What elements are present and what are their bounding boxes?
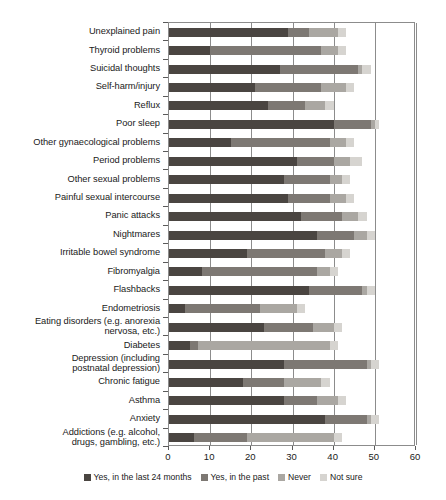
bar-segment: [169, 341, 190, 350]
bar-segment: [169, 101, 268, 110]
category-label: Anxiety: [0, 413, 164, 423]
category-label: Other sexual problems: [0, 174, 164, 184]
bar-segment: [301, 212, 342, 221]
bar-segment: [260, 304, 297, 313]
bar-segment: [169, 138, 231, 147]
bar-segment: [297, 304, 305, 313]
category-label: Panic attacks: [0, 210, 164, 220]
bar-row: [169, 231, 416, 240]
bar-segment: [255, 83, 321, 92]
bar-segment: [309, 286, 363, 295]
bar-segment: [284, 378, 321, 387]
x-axis-tick: [374, 446, 375, 450]
bar-segment: [309, 28, 338, 37]
x-axis-tick: [250, 446, 251, 450]
bar-row: [169, 378, 416, 387]
bar-segment: [321, 83, 346, 92]
bar-segment: [288, 194, 329, 203]
bar-segment: [169, 83, 255, 92]
plot-area: [168, 22, 415, 446]
bar-segment: [169, 28, 288, 37]
bar-segment: [169, 249, 247, 258]
category-label: Eating disorders (e.g. anorexia nervosa,…: [0, 316, 164, 336]
bar-segment: [371, 415, 379, 424]
bar-segment: [169, 304, 185, 313]
bar-row: [169, 212, 416, 221]
bar-segment: [169, 120, 334, 129]
category-label: Other gynaecological problems: [0, 137, 164, 147]
bar-segment: [371, 360, 379, 369]
bar-row: [169, 28, 416, 37]
bar-segment: [334, 120, 371, 129]
bar-segment: [288, 28, 309, 37]
bar-segment: [284, 175, 329, 184]
bars-layer: [169, 23, 414, 445]
bar-segment: [198, 341, 330, 350]
bar-segment: [210, 46, 321, 55]
x-axis-tick: [333, 446, 334, 450]
x-axis-tick: [168, 446, 169, 450]
bar-segment: [317, 267, 329, 276]
category-label: Painful sexual intercourse: [0, 192, 164, 202]
bar-segment: [169, 323, 264, 332]
bar-row: [169, 157, 416, 166]
bar-segment: [190, 341, 198, 350]
bar-segment: [330, 175, 342, 184]
bar-row: [169, 101, 416, 110]
bar-row: [169, 120, 416, 129]
bar-segment: [346, 138, 354, 147]
x-axis-tick-label: 0: [165, 451, 170, 462]
bar-segment: [264, 323, 313, 332]
x-axis-tick-label: 50: [369, 451, 380, 462]
category-label: Unexplained pain: [0, 26, 164, 36]
legend-swatch-icon: [278, 474, 285, 481]
bar-segment: [169, 286, 309, 295]
bar-segment: [169, 65, 280, 74]
bar-segment: [338, 46, 346, 55]
bar-segment: [297, 157, 334, 166]
category-label: Addictions (e.g. alcohol, drugs, gamblin…: [0, 427, 164, 447]
bar-segment: [169, 378, 243, 387]
bar-segment: [169, 175, 284, 184]
legend-item[interactable]: Yes, in the last 24 months: [84, 472, 192, 482]
bar-segment: [342, 249, 350, 258]
bar-row: [169, 194, 416, 203]
bar-segment: [231, 138, 330, 147]
bar-segment: [321, 378, 329, 387]
bar-segment: [325, 415, 366, 424]
bar-row: [169, 433, 416, 442]
bar-segment: [169, 157, 297, 166]
bar-row: [169, 360, 416, 369]
legend-item[interactable]: Never: [278, 472, 311, 482]
category-label: Poor sleep: [0, 118, 164, 128]
category-label: Endometriosis: [0, 303, 164, 313]
bar-segment: [375, 120, 379, 129]
bar-segment: [169, 415, 325, 424]
bar-segment: [169, 396, 284, 405]
bar-segment: [334, 433, 342, 442]
bar-segment: [305, 101, 326, 110]
category-label: Irritable bowel syndrome: [0, 247, 164, 257]
x-axis-tick-label: 10: [204, 451, 215, 462]
bar-segment: [342, 212, 358, 221]
bar-row: [169, 323, 416, 332]
bar-segment: [247, 249, 325, 258]
bar-row: [169, 267, 416, 276]
legend-item[interactable]: Not sure: [320, 472, 362, 482]
category-label: Period problems: [0, 155, 164, 165]
bar-segment: [346, 194, 354, 203]
bar-row: [169, 396, 416, 405]
bar-row: [169, 249, 416, 258]
bar-segment: [317, 231, 354, 240]
bar-segment: [358, 212, 366, 221]
bar-segment: [325, 101, 333, 110]
bar-row: [169, 138, 416, 147]
x-axis-tick-label: 40: [327, 451, 338, 462]
legend-label: Not sure: [330, 472, 362, 482]
bar-segment: [169, 212, 301, 221]
legend-label: Yes, in the last 24 months: [94, 472, 192, 482]
x-axis: 0102030405060: [168, 446, 415, 468]
legend-item[interactable]: Yes, in the past: [201, 472, 269, 482]
category-label: Flashbacks: [0, 284, 164, 294]
bar-segment: [342, 175, 350, 184]
